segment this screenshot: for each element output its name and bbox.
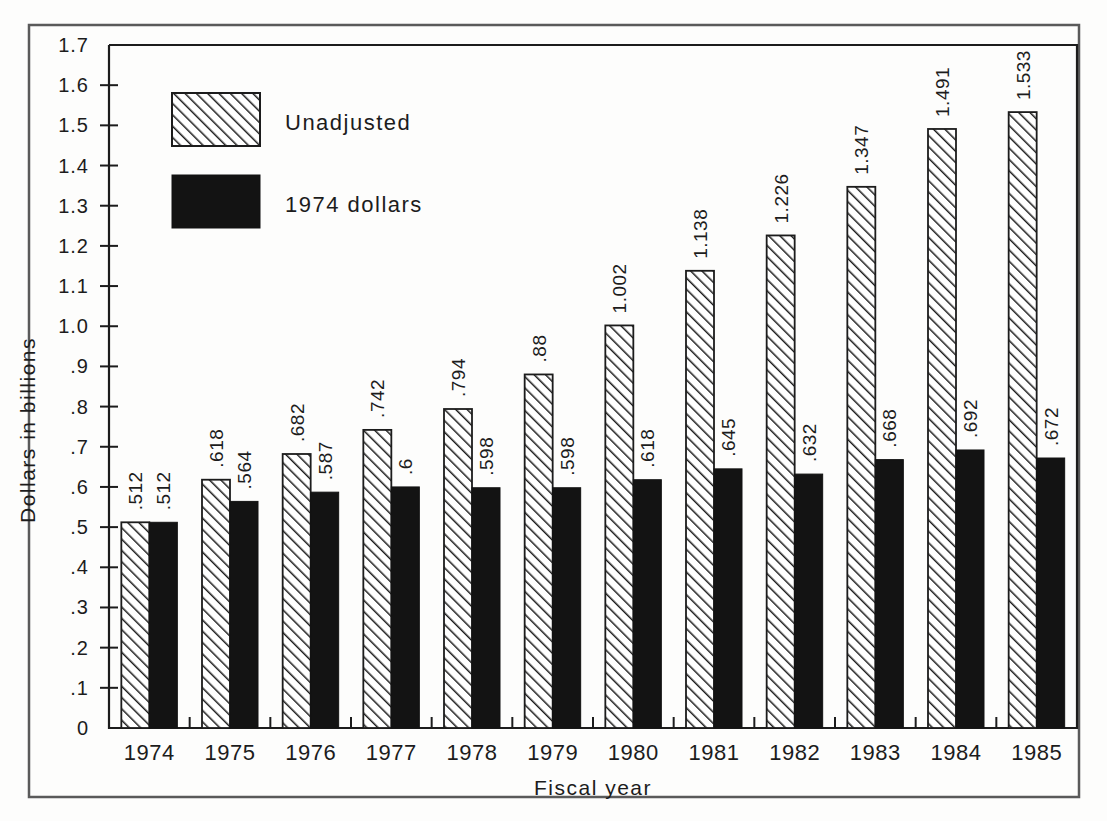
bar-1984-unadjusted	[928, 129, 956, 728]
bar-1981-unadjusted	[686, 271, 714, 728]
x-tick-label-1979: 1979	[527, 740, 578, 765]
bar-1979-constant-dollars	[553, 488, 581, 728]
x-tick-label-1976: 1976	[285, 740, 336, 765]
y-tick-label: .2	[70, 637, 89, 659]
legend-swatch-1974-dollars	[172, 175, 260, 228]
bar-value-label: .632	[799, 423, 820, 462]
bar-value-label: .618	[206, 429, 227, 468]
bar-1983-unadjusted	[847, 187, 875, 728]
bar-value-label: 1.533	[1013, 50, 1034, 100]
bar-value-label: .512	[153, 471, 174, 510]
x-tick-label-1981: 1981	[689, 740, 740, 765]
x-tick-label-1977: 1977	[366, 740, 417, 765]
y-tick-label: .6	[70, 476, 89, 498]
bar-value-label: .742	[367, 379, 388, 418]
x-axis-title: Fiscal year	[534, 776, 652, 799]
bar-value-label: .88	[529, 335, 550, 363]
bar-1984-constant-dollars	[956, 450, 984, 728]
y-axis-title: Dollars in billions	[16, 337, 39, 523]
x-tick-labels: 1974197519761977197819791980198119821983…	[124, 740, 1062, 765]
y-tick-label: .1	[70, 677, 89, 699]
bar-1985-unadjusted	[1009, 112, 1037, 728]
bar-value-labels: .512.512.618.564.682.587.742.6.794.598.8…	[125, 50, 1061, 510]
bar-1979-unadjusted	[525, 374, 553, 728]
y-tick-label: .8	[70, 396, 89, 418]
bar-value-label: 1.138	[690, 209, 711, 259]
y-tick-label: .4	[70, 556, 89, 578]
bar-1974-constant-dollars	[149, 522, 177, 728]
bar-value-label: .598	[476, 437, 497, 476]
bar-1982-constant-dollars	[795, 474, 823, 728]
bar-value-label: 1.347	[851, 125, 872, 175]
x-tick-label-1978: 1978	[447, 740, 498, 765]
y-tick-label: 1.3	[58, 195, 89, 217]
bar-value-label: .692	[960, 399, 981, 438]
bars-layer	[121, 112, 1064, 728]
bar-1975-constant-dollars	[230, 501, 258, 728]
legend: Unadjusted 1974 dollars	[172, 93, 423, 228]
legend-swatch-unadjusted	[172, 93, 260, 146]
x-tick-label-1983: 1983	[850, 740, 901, 765]
y-tick-label: 1.0	[58, 315, 89, 337]
bar-value-label: 1.002	[609, 263, 630, 313]
x-tick-label-1985: 1985	[1011, 740, 1062, 765]
bar-value-label: .587	[315, 441, 336, 480]
bar-value-label: .512	[125, 471, 146, 510]
bar-1985-constant-dollars	[1037, 458, 1065, 728]
y-tick-label: 1.4	[58, 155, 89, 177]
y-tick-label: 1.6	[58, 74, 89, 96]
y-tick-label: .3	[70, 596, 89, 618]
bar-1975-unadjusted	[202, 480, 230, 728]
bar-value-label: .645	[718, 418, 739, 457]
bar-value-label: .618	[637, 429, 658, 468]
bar-value-label: .794	[448, 358, 469, 397]
y-tick-label: .5	[70, 516, 89, 538]
bar-value-label: 1.491	[932, 67, 953, 117]
bar-value-label: .672	[1041, 407, 1062, 446]
bar-value-label: .682	[287, 403, 308, 442]
bar-value-label: 1.226	[771, 173, 792, 223]
bar-1977-unadjusted	[363, 430, 391, 728]
bar-value-label: .668	[879, 409, 900, 448]
bar-1980-unadjusted	[605, 325, 633, 728]
chart-figure: 0.1.2.3.4.5.6.7.8.91.01.11.21.31.41.51.6…	[0, 0, 1107, 821]
bar-1978-constant-dollars	[472, 488, 500, 728]
bar-1976-constant-dollars	[311, 492, 339, 728]
y-tick-label: 1.5	[58, 114, 89, 136]
y-tick-label: 1.7	[58, 34, 89, 56]
bar-value-label: .6	[395, 458, 416, 475]
x-tick-label-1984: 1984	[931, 740, 982, 765]
bar-1974-unadjusted	[121, 522, 149, 728]
x-tick-label-1975: 1975	[205, 740, 256, 765]
y-tick-label: .7	[70, 436, 89, 458]
y-tick-label: 1.1	[58, 275, 89, 297]
bar-1983-constant-dollars	[875, 460, 903, 728]
legend-label-1974-dollars: 1974 dollars	[285, 192, 423, 217]
x-tick-label-1974: 1974	[124, 740, 175, 765]
bar-1977-constant-dollars	[391, 487, 419, 728]
x-tick-label-1980: 1980	[608, 740, 659, 765]
y-tick-label: 0	[77, 717, 89, 739]
bar-value-label: .564	[234, 450, 255, 489]
bar-1976-unadjusted	[283, 454, 311, 728]
bar-1982-unadjusted	[767, 235, 795, 728]
legend-label-unadjusted: Unadjusted	[285, 110, 411, 135]
bar-1981-constant-dollars	[714, 469, 742, 728]
bar-value-label: .598	[557, 437, 578, 476]
bar-1978-unadjusted	[444, 409, 472, 728]
y-tick-label: .9	[70, 355, 89, 377]
bar-1980-constant-dollars	[633, 480, 661, 728]
x-tick-label-1982: 1982	[769, 740, 820, 765]
y-tick-label: 1.2	[58, 235, 89, 257]
bar-chart: 0.1.2.3.4.5.6.7.8.91.01.11.21.31.41.51.6…	[0, 0, 1107, 821]
